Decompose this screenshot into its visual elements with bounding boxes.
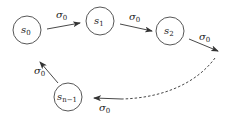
- edge-s1-s2: σ0: [120, 11, 152, 31]
- edge-label-s2-out: σ0: [199, 31, 210, 44]
- state-node-s0: s0: [13, 16, 41, 44]
- arrow-s1-s2: [120, 24, 152, 31]
- edge-s0-s1: σ0: [47, 9, 80, 29]
- state-node-s2: s2: [156, 17, 184, 45]
- state-cycle-diagram: σ0 σ0 σ0 σ0 σ0 s0 s1 s2 sn−1: [0, 0, 230, 118]
- edge-label-s0-s1: σ0: [56, 9, 67, 22]
- edge-label-into-sn1: σ0: [99, 102, 110, 115]
- edge-sn1-s0: σ0: [34, 62, 58, 83]
- edge-continuation-sn1: σ0: [94, 58, 215, 115]
- edge-label-sn1-s0: σ0: [34, 65, 45, 78]
- edge-s2-continuation: σ0: [189, 31, 218, 51]
- state-node-s1: s1: [86, 7, 114, 35]
- state-node-sn-minus-1: sn−1: [54, 83, 82, 111]
- dashed-curve: [122, 58, 215, 99]
- edge-label-s1-s2: σ0: [129, 11, 140, 24]
- arrow-into-sn1: [94, 98, 122, 99]
- arrow-s0-s1: [47, 23, 80, 29]
